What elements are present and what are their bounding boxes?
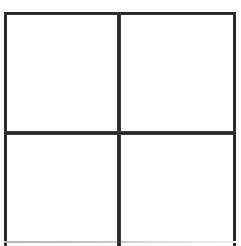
- quadrant-bottom-left[interactable]: [7, 135, 117, 241]
- frame-right-edge: [233, 12, 236, 246]
- grid-frame: [4, 12, 236, 246]
- quadrant-top-right[interactable]: [121, 15, 233, 131]
- quadrant-top-left[interactable]: [7, 15, 117, 131]
- quadrant-bottom-right[interactable]: [121, 135, 233, 241]
- four-quadrant-grid-figure: [0, 0, 241, 246]
